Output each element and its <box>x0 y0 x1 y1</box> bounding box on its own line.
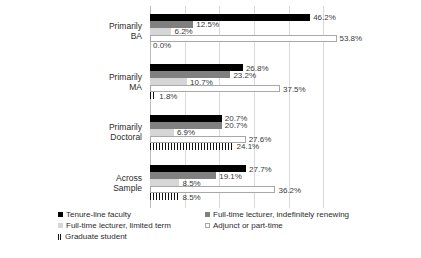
legend-swatch-icon <box>205 223 210 228</box>
bar-row: 46.2% <box>150 14 418 21</box>
bar-row: 37.5% <box>150 85 418 92</box>
category-label-line: MA <box>109 82 142 92</box>
legend-swatch-icon <box>205 212 210 217</box>
category-axis-labels: PrimarilyBAPrimarilyMAPrimarilyDoctoralA… <box>0 6 146 208</box>
legend-label: Graduate student <box>65 232 127 241</box>
bar <box>150 35 337 42</box>
category-label-line: BA <box>109 31 142 41</box>
bar-value-label: 0.0% <box>150 41 171 50</box>
bar-group: 26.8%23.2%10.7%37.5%1.8% <box>150 64 418 99</box>
bar-groups: 46.2%12.5%6.2%53.8%0.0%26.8%23.2%10.7%37… <box>150 6 358 208</box>
legend-item[interactable]: Full-time lecturer, limited term <box>58 220 208 231</box>
bar-row: 6.2% <box>150 28 418 35</box>
horizontal-bar-chart: PrimarilyBAPrimarilyMAPrimarilyDoctoralA… <box>0 0 421 258</box>
legend-swatch-icon <box>58 212 63 217</box>
category-label-line: Sample <box>113 183 142 193</box>
bar-row: 24.1% <box>150 143 418 150</box>
category-label-line: Primarily <box>109 72 142 82</box>
bar-value-label: 24.1% <box>234 142 260 151</box>
bar-value-label: 8.5% <box>179 192 200 201</box>
bar-group: 20.7%20.7%6.9%27.6%24.1% <box>150 115 418 150</box>
bar-value-label: 1.8% <box>156 91 177 100</box>
bar <box>150 193 179 200</box>
bar-group: 46.2%12.5%6.2%53.8%0.0% <box>150 14 418 49</box>
category-label: PrimarilyDoctoral <box>109 122 142 142</box>
bar-row: 27.7% <box>150 165 418 172</box>
category-label: PrimarilyBA <box>109 21 142 41</box>
category-label-line: Primarily <box>109 21 142 31</box>
bar-row: 27.6% <box>150 136 418 143</box>
legend-label: Adjunct or part-time <box>213 221 283 230</box>
legend-label: Full-time lecturer, limited term <box>66 221 171 230</box>
plot-area: 46.2%12.5%6.2%53.8%0.0%26.8%23.2%10.7%37… <box>150 6 358 208</box>
legend-column-right: Full-time lecturer, indefinitely renewin… <box>205 209 410 231</box>
bar <box>150 28 171 35</box>
bar-row: 1.8% <box>150 92 418 99</box>
legend-swatch-icon <box>58 223 63 228</box>
bar <box>150 179 179 186</box>
category-label-line: Across <box>113 173 142 183</box>
legend-label: Full-time lecturer, indefinitely renewin… <box>213 210 349 219</box>
bar-row: 6.9% <box>150 129 418 136</box>
bar <box>150 115 222 122</box>
category-label: AcrossSample <box>113 173 142 193</box>
bar <box>150 129 174 136</box>
legend-item[interactable]: Graduate student <box>58 231 208 242</box>
bar-row: 20.7% <box>150 115 418 122</box>
bar <box>150 136 246 143</box>
bar <box>150 64 243 71</box>
bar-group: 27.7%19.1%8.5%36.2%8.5% <box>150 165 418 200</box>
legend-swatch-icon <box>58 234 62 240</box>
bar-row: 26.8% <box>150 64 418 71</box>
bar-row: 8.5% <box>150 193 418 200</box>
bar <box>150 186 275 193</box>
legend-label: Tenure-line faculty <box>66 210 131 219</box>
bar-row: 53.8% <box>150 35 418 42</box>
category-label: PrimarilyMA <box>109 72 142 92</box>
bar <box>150 143 234 150</box>
bar <box>150 78 187 85</box>
bar <box>150 14 310 21</box>
legend-item[interactable]: Full-time lecturer, indefinitely renewin… <box>205 209 410 220</box>
legend-item[interactable]: Tenure-line faculty <box>58 209 208 220</box>
legend-column-left: Tenure-line facultyFull-time lecturer, l… <box>58 209 208 242</box>
category-label-line: Doctoral <box>109 132 142 142</box>
bar-row: 0.0% <box>150 42 418 49</box>
legend-item[interactable]: Adjunct or part-time <box>205 220 410 231</box>
category-label-line: Primarily <box>109 122 142 132</box>
